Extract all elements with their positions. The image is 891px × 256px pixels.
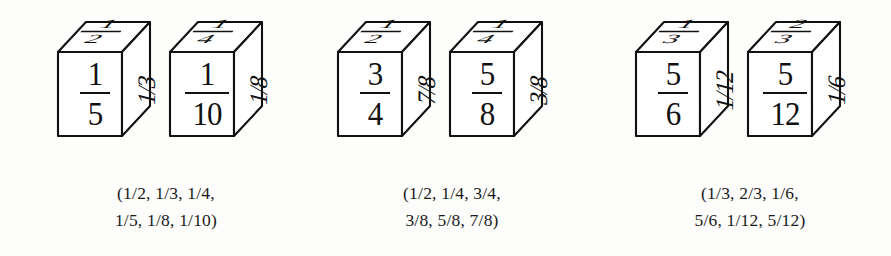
cubes-row-1: 1 2 1 5 1/3	[36, 14, 296, 144]
cube-3-front-face: 3 4	[340, 51, 410, 135]
cube-2-top-denominator: 4	[192, 32, 218, 45]
cube-5-front-numerator: 5	[666, 56, 681, 91]
cube-3-right-fraction: 7/8	[413, 73, 441, 108]
cube-2-top-face: 1 4	[186, 16, 240, 46]
cube-5-front-face: 5 6	[638, 51, 708, 135]
caption-group-2: (1/2, 1/4, 3/4, 3/8, 5/8, 7/8)	[322, 180, 582, 234]
cube-3-front-numerator: 3	[368, 56, 383, 91]
cube-4-top-face: 1 4	[466, 16, 520, 46]
cube-2-front-numerator: 1	[200, 56, 215, 91]
cube-2-front-denominator: 10	[193, 96, 222, 131]
caption-group-1: (1/2, 1/3, 1/4, 1/5, 1/8, 1/10)	[36, 180, 296, 234]
cube-1-top-denominator: 2	[80, 32, 106, 45]
cube-6-front-numerator: 5	[778, 56, 793, 91]
cube-5-right-face: 1/12	[708, 44, 742, 136]
cube-5[interactable]: 1 3 5 6 1/12	[628, 14, 740, 140]
cube-2-right-fraction: 1/8	[245, 73, 273, 108]
cube-1-right-fraction: 1/3	[133, 73, 161, 108]
cube-4-front-numerator: 5	[480, 56, 495, 91]
caption-group-3: (1/3, 2/3, 1/6, 5/6, 1/12, 5/12)	[620, 180, 880, 234]
cube-1-right-face: 1/3	[130, 44, 164, 136]
cube-1-front-numerator: 1	[88, 56, 103, 91]
cube-5-right-fraction: 1/12	[711, 67, 739, 113]
cube-6-front-denominator: 12	[771, 96, 800, 131]
cube-6-top-denominator: 3	[770, 32, 796, 45]
cube-1-top-face: 1 2	[74, 16, 128, 46]
dice-group-3: 1 3 5 6 1/12	[620, 0, 880, 256]
dice-group-2: 1 2 3 4 7/8	[322, 0, 582, 256]
caption-group-1-line-2: 1/5, 1/8, 1/10)	[36, 207, 296, 234]
caption-group-2-line-1: (1/2, 1/4, 3/4,	[322, 180, 582, 207]
cube-5-top-numerator: 1	[673, 17, 699, 30]
caption-group-3-line-2: 5/6, 1/12, 5/12)	[620, 207, 880, 234]
cubes-row-3: 1 3 5 6 1/12	[620, 14, 880, 144]
cube-3-top-numerator: 1	[375, 17, 401, 30]
caption-group-3-line-1: (1/3, 2/3, 1/6,	[620, 180, 880, 207]
cube-6-top-face: 2 3	[764, 16, 818, 46]
cube-4-right-face: 3/8	[522, 44, 556, 136]
cube-4-front-denominator: 8	[480, 96, 495, 131]
dice-group-1: 1 2 1 5 1/3	[36, 0, 296, 256]
cube-1-front-face: 1 5	[60, 51, 130, 135]
cube-6[interactable]: 2 3 5 12 1/6	[740, 14, 852, 140]
cube-6-top-numerator: 2	[785, 17, 811, 30]
cube-1-top-numerator: 1	[95, 17, 121, 30]
cube-6-right-face: 1/6	[820, 44, 854, 136]
cube-2-right-face: 1/8	[242, 44, 276, 136]
cube-4-right-fraction: 3/8	[525, 73, 553, 108]
cube-3-front-denominator: 4	[368, 96, 383, 131]
cube-2-front-face: 1 10	[172, 51, 242, 135]
cube-6-right-fraction: 1/6	[823, 73, 851, 108]
cube-4-front-face: 5 8	[452, 51, 522, 135]
caption-group-2-line-2: 3/8, 5/8, 7/8)	[322, 207, 582, 234]
cube-5-top-face: 1 3	[652, 16, 706, 46]
cube-4-top-numerator: 1	[487, 17, 513, 30]
cube-2-top-numerator: 1	[207, 17, 233, 30]
cube-1[interactable]: 1 2 1 5 1/3	[50, 14, 162, 140]
figure-canvas: 1 2 1 5 1/3	[0, 0, 891, 256]
cube-5-front-denominator: 6	[666, 96, 681, 131]
cube-3-top-face: 1 2	[354, 16, 408, 46]
cubes-row-2: 1 2 3 4 7/8	[322, 14, 582, 144]
cube-3-top-denominator: 2	[360, 32, 386, 45]
cube-4[interactable]: 1 4 5 8 3/8	[442, 14, 554, 140]
cube-5-top-denominator: 3	[658, 32, 684, 45]
cube-4-top-denominator: 4	[472, 32, 498, 45]
cube-3[interactable]: 1 2 3 4 7/8	[330, 14, 442, 140]
caption-group-1-line-1: (1/2, 1/3, 1/4,	[36, 180, 296, 207]
cube-3-right-face: 7/8	[410, 44, 444, 136]
cube-6-front-face: 5 12	[750, 51, 820, 135]
cube-1-front-denominator: 5	[88, 96, 103, 131]
cube-2[interactable]: 1 4 1 10 1/8	[162, 14, 274, 140]
